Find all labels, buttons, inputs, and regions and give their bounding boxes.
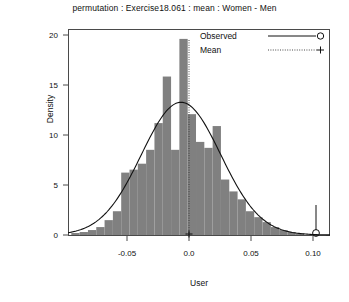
x-tick-label-0.05: 0.05 — [231, 249, 271, 258]
x-tick-label-0.0: 0.0 — [169, 249, 209, 258]
y-tick-label-15: 15 — [36, 81, 58, 90]
y-axis-label: Density — [45, 49, 55, 169]
y-tick-label-0: 0 — [36, 231, 58, 240]
x-axis-label: User — [68, 278, 330, 288]
legend-item-mean: Mean — [196, 45, 328, 59]
permutation-histogram-plot: permutation : Exercise18.061 : mean : Wo… — [0, 0, 349, 302]
x-tick-label-0.10: 0.10 — [293, 249, 333, 258]
legend-item-observed: Observed — [196, 31, 328, 45]
legend: Observed Mean — [196, 31, 328, 61]
y-tick-label-20: 20 — [36, 31, 58, 40]
legend-label-observed: Observed — [200, 31, 237, 41]
y-tick-label-10: 10 — [36, 131, 58, 140]
plot-title: permutation : Exercise18.061 : mean : Wo… — [0, 3, 349, 13]
legend-label-mean: Mean — [200, 45, 221, 55]
y-tick-label-5: 5 — [36, 181, 58, 190]
x-tick-label-neg0.05: -0.05 — [107, 249, 147, 258]
